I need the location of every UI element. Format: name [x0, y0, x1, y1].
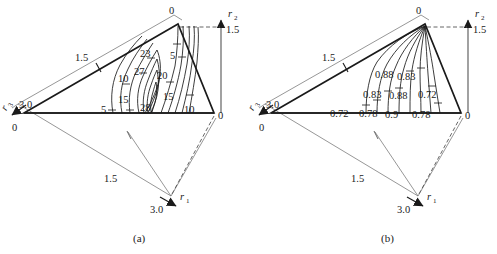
panel-a-r3-sub: 3 [6, 101, 15, 108]
panel-a-r1-tick-3-0: 3.0 [150, 204, 163, 215]
panel-b-contour-label-083-right: 0.83 [397, 71, 415, 82]
panel-a-r2-tick-1-5: 1.5 [226, 24, 239, 35]
panel-a-contour-label-28: 28 [140, 102, 151, 113]
panel-b-r2-tick-1-5: 1.5 [473, 24, 486, 35]
panel-a-contour-label-15-left: 15 [118, 94, 129, 105]
panel-a-contour-label-5-left: 5 [101, 104, 106, 115]
panel-b-r3-tick-1-5: 1.5 [322, 52, 335, 63]
panel-a: 0 0 0 1.5 1.5 1.5 3.0 3.0 r 2 r 3 r [0, 5, 239, 215]
panel-b-contour-label-078-right: 0.78 [412, 109, 430, 120]
panel-a-axis-name-r1: r 1 [180, 191, 190, 205]
panel-a-vertex-left-label: 0 [12, 122, 17, 133]
panel-b-contour-label-083-left: 0.83 [363, 89, 381, 100]
panel-a-contour-label-10-left: 10 [118, 73, 129, 84]
panel-b-r3-sub: 3 [253, 101, 262, 108]
panel-a-r1-dashed-leader [172, 116, 214, 194]
panel-a-vertex-right-label: 0 [218, 110, 223, 121]
panel-a-contour-label-15-right: 15 [163, 91, 174, 102]
panel-a-r1-tick-1-5: 1.5 [104, 173, 117, 184]
panel-b-contour-label-072-left: 0.72 [330, 108, 348, 119]
panel-b-r1-label: r [427, 191, 432, 202]
panel-a-r3-tick-3-0: 3.0 [19, 99, 32, 110]
panel-a-r2-sub: 2 [234, 14, 238, 22]
panel-b-axis-name-r1: r 1 [427, 191, 437, 205]
panel-b-r1-dashed-leader [419, 116, 461, 194]
panel-b-r3-tick-3-0: 3.0 [266, 99, 279, 110]
panel-b-contour-label-072-right: 0.72 [418, 89, 436, 100]
panel-b-contour-label-088-mid: 0.88 [389, 90, 407, 101]
panel-b-contour-label-09: 0.9 [385, 109, 398, 120]
panel-a-contour-label-27: 27 [134, 66, 145, 77]
panel-b-r1-tick-1-5: 1.5 [351, 173, 364, 184]
panel-b-r2-sub: 2 [481, 14, 485, 22]
panel-a-r1-sub: 1 [186, 197, 190, 205]
panel-a-r3-tick-1-5: 1.5 [75, 52, 88, 63]
panel-a-vertex-top-label: 0 [169, 5, 174, 16]
panel-b: 0 0 0 1.5 1.5 1.5 3.0 3.0 r 2 r 3 r [245, 5, 486, 215]
panel-b-r1-sub: 1 [433, 197, 437, 205]
panel-a-labels: 0 0 0 1.5 1.5 1.5 3.0 3.0 r 2 r 3 r [0, 5, 239, 215]
panel-b-contour-label-088-upper-left: 0.88 [375, 69, 393, 80]
panel-b-r2-label: r [475, 8, 480, 19]
panel-a-axis-name-r3: r 3 [0, 98, 15, 113]
panel-a-r1-label: r [180, 191, 185, 202]
panel-b-axis-name-r2: r 2 [475, 8, 485, 22]
panel-b-caption: (b) [381, 232, 394, 244]
panel-b-vertex-top-label: 0 [416, 5, 421, 16]
panel-a-contour-label-10-right: 10 [184, 104, 195, 115]
panel-a-r2-label: r [228, 8, 233, 19]
figure-root: 0 0 0 1.5 1.5 1.5 3.0 3.0 r 2 r 3 r [0, 0, 497, 254]
panel-b-labels: 0 0 0 1.5 1.5 1.5 3.0 3.0 r 2 r 3 r [245, 5, 486, 215]
panel-a-axis-name-r2: r 2 [228, 8, 238, 22]
panel-b-r1-tick-3-0: 3.0 [397, 204, 410, 215]
panel-a-contour-label-23: 23 [140, 48, 151, 59]
panel-b-vertex-right-label: 0 [465, 110, 470, 121]
panel-a-caption: (a) [133, 232, 145, 244]
panel-b-axis-name-r3: r 3 [245, 98, 262, 113]
ternary-contour-figure: 0 0 0 1.5 1.5 1.5 3.0 3.0 r 2 r 3 r [0, 0, 497, 254]
panel-a-contour-label-20-right: 20 [157, 70, 168, 81]
panel-b-vertex-left-label: 0 [259, 122, 264, 133]
panel-b-contour-label-078-left: 0.78 [359, 108, 377, 119]
panel-a-contour-label-5-right: 5 [170, 50, 175, 61]
